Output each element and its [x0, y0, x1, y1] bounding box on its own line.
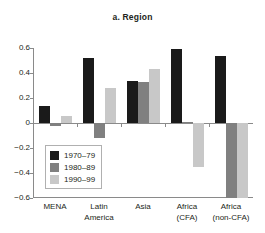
y-tick-label: 0.6 [2, 44, 30, 52]
bar [50, 123, 61, 126]
y-axis-tick [30, 73, 33, 74]
x-axis-tick [77, 123, 78, 127]
legend-item: 1970–79 [50, 149, 95, 161]
bar [94, 123, 105, 138]
legend-label: 1980–89 [64, 163, 95, 172]
bar [39, 106, 50, 124]
x-category-label-line2: (non-CFA) [209, 212, 253, 223]
y-tick-label: −0.2 [2, 144, 30, 152]
y-axis-tick [30, 123, 33, 124]
x-category-label-line1: Africa [177, 202, 197, 211]
x-category-label: Africa(CFA) [165, 201, 209, 223]
region-bar-chart: a. Region 0.60.40.20−0.2−0.4−0.6 MENALat… [0, 0, 265, 233]
y-axis-tick-labels: 0.60.40.20−0.2−0.4−0.6 [0, 44, 30, 204]
y-axis-tick [30, 48, 33, 49]
bar-group [171, 48, 204, 198]
x-category-label: LatinAmerica [77, 201, 121, 223]
legend-swatch [50, 151, 59, 160]
y-tick-label: 0.2 [2, 94, 30, 102]
y-axis-tick [30, 198, 33, 199]
x-axis-tick [165, 123, 166, 127]
legend-swatch [50, 175, 59, 184]
x-category-label-line2: (CFA) [165, 212, 209, 223]
legend-item: 1980–89 [50, 161, 95, 173]
bar [105, 88, 116, 123]
bar [61, 116, 72, 124]
bar [193, 123, 204, 167]
bar [215, 56, 226, 124]
y-tick-label: −0.6 [2, 194, 30, 202]
x-category-label-line1: Latin [90, 202, 107, 211]
y-axis-tick [30, 173, 33, 174]
y-axis-tick [30, 98, 33, 99]
x-axis-category-labels: MENALatinAmericaAsiaAfrica(CFA)Africa(no… [33, 201, 253, 233]
legend: 1970–791980–891990–99 [45, 145, 102, 189]
bar [237, 123, 248, 198]
bar [127, 81, 138, 124]
x-category-label-line2: America [77, 212, 121, 223]
bar [83, 58, 94, 123]
x-category-label-line1: Asia [135, 202, 151, 211]
legend-label: 1990–99 [64, 175, 95, 184]
bar [226, 123, 237, 198]
y-tick-label: 0.4 [2, 69, 30, 77]
x-axis-tick [209, 123, 210, 127]
x-category-label: Asia [121, 201, 165, 212]
bar-group [127, 48, 160, 198]
chart-title: a. Region [0, 12, 265, 22]
y-tick-label: −0.4 [2, 169, 30, 177]
bar [149, 69, 160, 123]
x-category-label: Africa(non-CFA) [209, 201, 253, 223]
x-axis-tick [121, 123, 122, 127]
bar [138, 82, 149, 123]
x-category-label-line1: Africa [221, 202, 241, 211]
y-axis-tick [30, 148, 33, 149]
legend-label: 1970–79 [64, 151, 95, 160]
bar [171, 49, 182, 123]
y-tick-label: 0 [2, 119, 30, 127]
legend-item: 1990–99 [50, 173, 95, 185]
x-category-label-line1: MENA [43, 202, 66, 211]
bar-group [215, 48, 248, 198]
legend-swatch [50, 163, 59, 172]
x-category-label: MENA [33, 201, 77, 212]
bar [182, 122, 193, 123]
